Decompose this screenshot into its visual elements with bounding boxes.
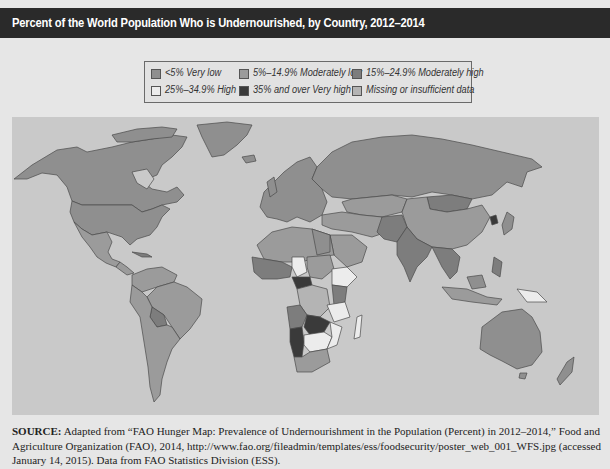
region-caribbean bbox=[132, 252, 152, 257]
figure-title: Percent of the World Population Who is U… bbox=[12, 15, 425, 30]
legend-label: 15%–24.9% Moderately high bbox=[366, 67, 484, 78]
legend-label: <5% Very low bbox=[165, 67, 221, 78]
region-australia bbox=[480, 309, 542, 369]
region-ethiopia bbox=[332, 267, 357, 287]
legend-label: 5%–14.9% Moderately low bbox=[253, 67, 362, 78]
world-map bbox=[12, 117, 599, 415]
legend-label: Missing or insufficient data bbox=[366, 84, 474, 95]
region-canada-alaska bbox=[14, 135, 187, 212]
region-central-america bbox=[116, 262, 134, 275]
region-tasmania bbox=[519, 373, 527, 379]
region-russia bbox=[312, 135, 542, 199]
legend-label: 25%–34.9% High bbox=[165, 84, 236, 95]
region-papua bbox=[517, 289, 547, 302]
swatch-high bbox=[151, 86, 161, 96]
world-map-graphic bbox=[12, 117, 599, 415]
region-namibia bbox=[290, 327, 304, 357]
region-arabia bbox=[330, 235, 367, 267]
region-chad bbox=[292, 257, 307, 277]
region-iceland bbox=[242, 155, 256, 163]
source-label: SOURCE: bbox=[12, 425, 62, 437]
region-japan bbox=[502, 212, 514, 235]
region-borneo bbox=[467, 275, 486, 289]
region-southeast-asia bbox=[432, 247, 460, 279]
map-legend: <5% Very low 5%–14.9% Moderately low 15%… bbox=[144, 61, 472, 103]
swatch-missing bbox=[352, 86, 362, 96]
region-madagascar bbox=[354, 315, 362, 339]
swatch-moderately-low bbox=[239, 69, 249, 79]
swatch-moderately-high bbox=[352, 69, 362, 79]
region-greenland bbox=[197, 122, 252, 157]
region-new-zealand bbox=[557, 357, 574, 385]
legend-row-2: 25%–34.9% High 35% and over Very high Mi… bbox=[151, 84, 471, 98]
region-tanzania bbox=[327, 302, 350, 322]
source-citation: SOURCE: Adapted from “FAO Hunger Map: Pr… bbox=[12, 424, 602, 468]
region-indonesia bbox=[442, 287, 502, 305]
region-sudan bbox=[307, 255, 334, 279]
swatch-very-high bbox=[239, 86, 249, 96]
source-text: Adapted from “FAO Hunger Map: Prevalence… bbox=[12, 425, 601, 466]
legend-row-1: <5% Very low 5%–14.9% Moderately low 15%… bbox=[151, 67, 471, 81]
legend-label: 35% and over Very high bbox=[253, 84, 351, 95]
title-bar: Percent of the World Population Who is U… bbox=[0, 8, 610, 38]
region-zambia bbox=[304, 315, 330, 335]
region-north-korea bbox=[490, 215, 498, 225]
swatch-very-low bbox=[151, 69, 161, 79]
region-philippines bbox=[492, 257, 502, 277]
